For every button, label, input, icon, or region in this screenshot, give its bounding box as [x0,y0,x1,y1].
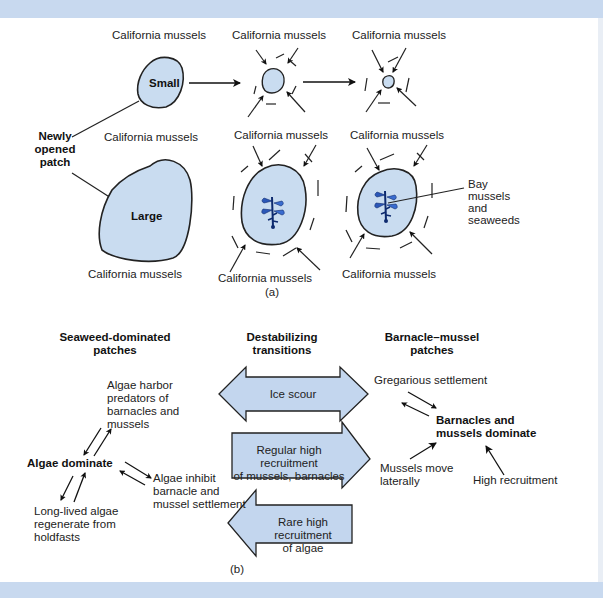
label-california-mussels: California mussels [112,29,206,42]
header-seaweed-dominated: Seaweed-dominated patches [55,331,175,357]
regular-recruitment-label: Regular high recruitment of mussels, bar… [232,444,346,483]
label-california-mussels: California mussels [88,268,182,281]
label-california-mussels: California mussels [234,129,328,142]
panel-a-caption: (a) [265,286,279,299]
panel-b-caption: (b) [230,563,244,576]
label-california-mussels: California mussels [232,29,326,42]
newly-opened-patch-label: Newly opened patch [33,130,77,169]
label-california-mussels: California mussels [350,129,444,142]
bay-mussels-label: Bay mussels and seaweeds [468,178,520,226]
algae-dominate: Algae dominate [27,457,113,470]
patch-small-label: Small [149,77,180,90]
long-lived-algae: Long-lived algae regenerate from holdfas… [34,505,118,544]
label-california-mussels: California mussels [218,272,312,285]
ice-scour-label: Ice scour [246,388,340,401]
label-california-mussels: California mussels [104,131,198,144]
patch-large-label: Large [131,210,162,223]
mussels-move-laterally: Mussels move laterally [380,462,454,488]
header-barnacle-mussel: Barnacle–mussel patches [382,331,482,357]
high-recruitment: High recruitment [473,474,557,487]
rare-recruitment-label: Rare high recruitment of algae [248,516,358,555]
label-california-mussels: California mussels [342,268,436,281]
gregarious-settlement: Gregarious settlement [374,374,487,387]
header-destabilizing: Destabilizing transitions [232,331,332,357]
algae-harbor-predators: Algae harbor predators of barnacles and … [107,379,179,431]
label-california-mussels: California mussels [352,29,446,42]
barnacles-mussels-dominate: Barnacles and mussels dominate [436,414,536,440]
